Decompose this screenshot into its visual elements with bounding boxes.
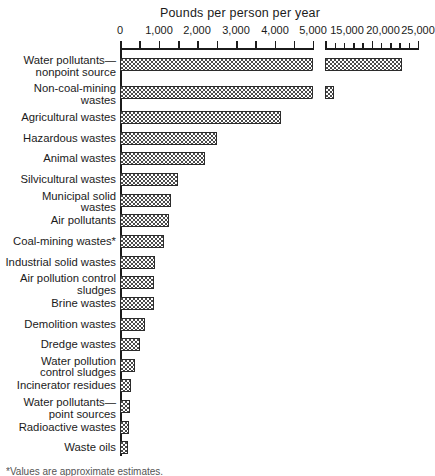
bar[interactable] [120, 441, 128, 454]
bar[interactable] [120, 400, 130, 413]
bar[interactable] [120, 359, 135, 372]
bar-segment-2[interactable] [325, 58, 402, 71]
bar[interactable] [120, 214, 169, 227]
category-label: Silvicultural wastes [21, 174, 116, 186]
bar[interactable] [120, 276, 154, 289]
category-label: Dredge wastes [41, 339, 116, 351]
bar[interactable] [120, 379, 131, 392]
category-label: Demolition wastes [24, 319, 116, 331]
category-label: Animal wastes [43, 153, 116, 165]
category-label: Brine wastes [51, 298, 116, 310]
category-label: Air pollutants [51, 215, 116, 227]
bar[interactable] [120, 132, 217, 145]
bar[interactable] [120, 152, 205, 165]
bar[interactable] [120, 173, 178, 186]
bar[interactable] [120, 235, 164, 248]
bar[interactable] [120, 111, 281, 124]
bar[interactable] [120, 421, 129, 434]
category-label: Agricultural wastes [21, 112, 116, 124]
category-label: Water pollution control sludges [40, 356, 116, 379]
category-label: Incinerator residues [17, 380, 116, 392]
chart-footnote: *Values are approximate estimates. [6, 466, 426, 476]
bar[interactable] [120, 318, 145, 331]
category-label: Air pollution control sludges [20, 273, 116, 296]
axis-break-mark [312, 56, 322, 73]
category-label: Non-coal-mining wastes [34, 83, 116, 106]
bar-segment-1[interactable] [120, 86, 313, 99]
bar-segment-2[interactable] [325, 86, 334, 99]
category-label: Industrial solid wastes [5, 257, 116, 269]
bar[interactable] [120, 256, 155, 269]
category-label: Coal-mining wastes* [13, 236, 116, 248]
bar[interactable] [120, 338, 140, 351]
category-label: Water pollutants— nonpoint source [23, 55, 116, 78]
bar-segment-1[interactable] [120, 58, 313, 71]
category-label: Radioactive wastes [19, 422, 116, 434]
axis-break-mark [312, 84, 322, 101]
bar[interactable] [120, 194, 171, 207]
category-label: Water pollutants— point sources [23, 397, 116, 420]
bar[interactable] [120, 297, 154, 310]
category-label: Hazardous wastes [23, 133, 116, 145]
category-label: Municipal solid wastes [42, 191, 116, 214]
category-label: Waste oils [64, 442, 116, 454]
